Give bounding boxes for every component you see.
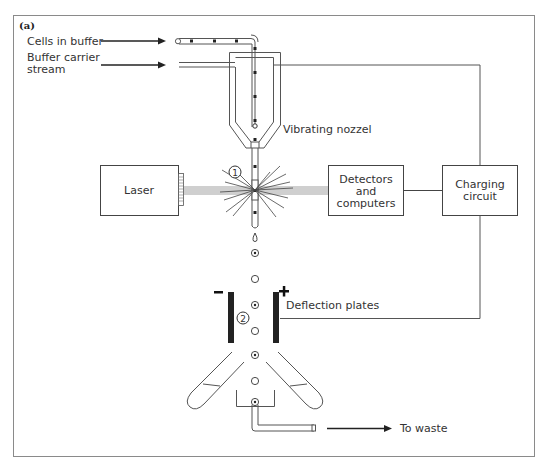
waste-collector [237, 390, 316, 431]
charging-circuit-box: Charging circuit [443, 166, 518, 216]
svg-text:computers: computers [337, 197, 396, 210]
cells-in-tube [190, 40, 257, 123]
negative-deflection-plate [228, 292, 234, 343]
carrier-arrow-icon [101, 62, 166, 69]
laser-label: Laser [124, 184, 154, 197]
nozzle-charge-wire [274, 65, 481, 165]
cells-in-buffer-label: Cells in buffer [27, 35, 104, 48]
carrier-stream-pipe [179, 63, 235, 68]
svg-text:2: 2 [240, 314, 246, 324]
tube-outlet [253, 124, 257, 128]
laser-box: Laser [101, 166, 184, 216]
cells-arrow-icon [101, 38, 166, 45]
detectors-box: Detectors and computers [329, 166, 404, 216]
plus-sign-icon [279, 286, 289, 297]
to-waste-label: To waste [399, 422, 448, 435]
vibrating-nozzle-label: Vibrating nozzel [283, 123, 371, 136]
waste-arrow-icon [327, 425, 392, 432]
cell-feed-tube [175, 35, 258, 127]
deflection-plates-label: Deflection plates [286, 299, 379, 312]
droplets [251, 233, 258, 406]
positive-deflection-plate [273, 292, 279, 343]
left-collection-tube [187, 352, 244, 409]
svg-text:circuit: circuit [463, 190, 497, 203]
panel-label: (a) [19, 20, 35, 31]
buffer-carrier-label-line2: stream [27, 63, 66, 76]
marker-2: 2 [237, 312, 249, 324]
svg-text:1: 1 [232, 168, 238, 178]
cell-in-nozzle [254, 138, 257, 141]
cell-sorter-diagram: (a) Cells in buffer Buffer carrier strea… [0, 0, 544, 467]
marker-1: 1 [229, 166, 241, 178]
minus-sign-icon [214, 291, 223, 294]
